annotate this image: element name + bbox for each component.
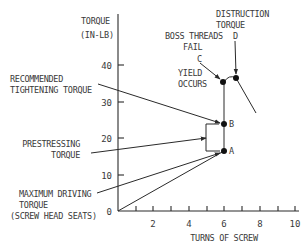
prestressing-bracket [206, 124, 220, 151]
x-tick-6: 6 [221, 219, 226, 229]
point-c-label: C [197, 54, 202, 64]
y-tick-0: 0 [107, 207, 112, 217]
point-d [233, 75, 239, 81]
leader-c [200, 63, 220, 79]
leader-recommended [98, 84, 220, 123]
prestressing-label-2: TORQUE [51, 150, 80, 160]
boss-threads-label-1: BOSS THREADS [165, 31, 223, 41]
y-tick-20: 20 [101, 134, 112, 144]
point-b [221, 121, 227, 127]
max-driving-label-3: (SCREW HEAD SEATS) [10, 211, 97, 221]
x-tick-4: 4 [186, 219, 191, 229]
x-tick-2: 2 [150, 219, 155, 229]
x-tick-10: 10 [290, 219, 301, 229]
prestressing-label-1: PRESTRESSING [22, 139, 80, 149]
destruction-label-2: TORQUE [216, 20, 245, 30]
y-axis-label-line2: (IN-LB) [80, 30, 114, 40]
boss-threads-label-2: FAIL [183, 42, 202, 52]
torque-turn-diagram: 0 10 20 30 40 2 4 6 8 10 TURNS OF SCREW … [0, 0, 307, 252]
max-driving-label-1: MAXIMUM DRIVING [19, 189, 91, 199]
leader-d [235, 41, 236, 74]
leader-max-driving [97, 153, 220, 193]
recommended-label-1: RECOMMENDED [10, 74, 63, 84]
x-axis-label: TURNS OF SCREW [190, 233, 259, 243]
y-tick-30: 30 [101, 98, 112, 108]
x-ticks [136, 206, 295, 211]
yield-label-1: YIELD [178, 68, 202, 78]
point-d-label: D [233, 31, 238, 41]
point-a-label: A [229, 146, 234, 156]
yield-label-2: OCCURS [178, 79, 207, 89]
point-c [220, 79, 226, 85]
y-ticks [118, 65, 124, 175]
point-b-label: B [229, 119, 234, 129]
y-tick-10: 10 [101, 171, 112, 181]
point-a [221, 148, 227, 154]
destruction-label-1: DISTRUCTION [216, 9, 269, 19]
max-driving-label-2: TORQUE [19, 200, 48, 210]
y-axis-label-line1: TORQUE [81, 16, 110, 26]
y-tick-40: 40 [101, 61, 112, 71]
recommended-label-2: TIGHTENING TORQUE [10, 85, 92, 95]
x-tick-8: 8 [257, 219, 262, 229]
